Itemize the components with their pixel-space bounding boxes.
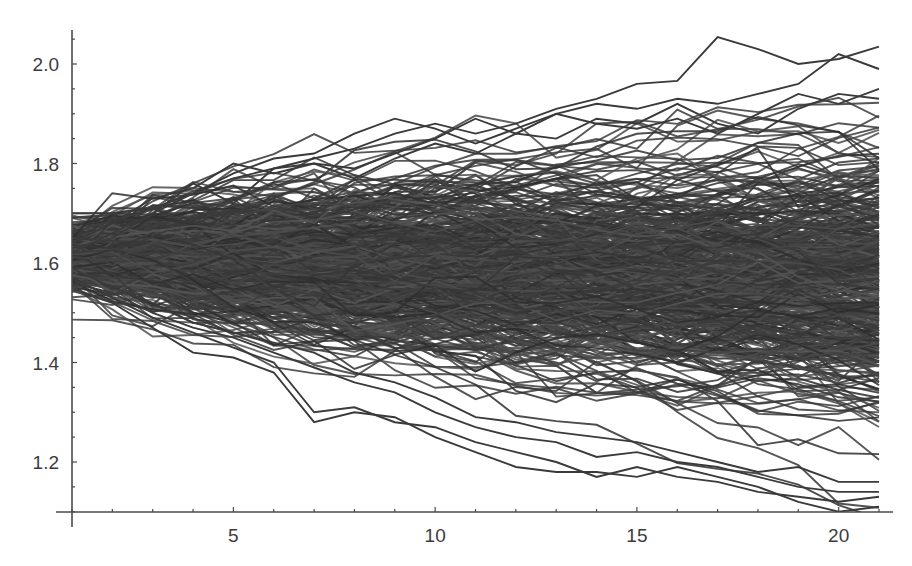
y-tick-label: 2.0 [33, 54, 59, 75]
x-tick-label: 5 [228, 525, 239, 546]
x-tick-label: 15 [626, 525, 647, 546]
x-axis-tick-labels: 5101520 [228, 525, 849, 546]
y-axis-tick-labels: 1.21.41.61.82.0 [33, 54, 60, 473]
y-tick-label: 1.6 [33, 253, 59, 274]
y-tick-label: 1.2 [33, 452, 59, 473]
random-walk-paths [72, 98, 879, 519]
y-tick-label: 1.4 [33, 353, 60, 374]
y-tick-label: 1.8 [33, 154, 59, 175]
x-axis-ticks [72, 507, 879, 512]
x-tick-label: 20 [828, 525, 849, 546]
chart: 1.21.41.61.82.0 5101520 [0, 0, 912, 566]
x-tick-label: 10 [425, 525, 446, 546]
